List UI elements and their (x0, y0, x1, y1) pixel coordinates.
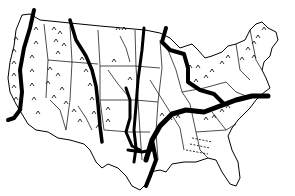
us-map (0, 0, 295, 196)
us-map-drawing (0, 0, 295, 196)
ohio-tennessee-line (146, 96, 268, 160)
thick-lines (8, 10, 268, 186)
sierra-cascade-line (70, 20, 102, 142)
pacific-coast-line (8, 10, 34, 120)
